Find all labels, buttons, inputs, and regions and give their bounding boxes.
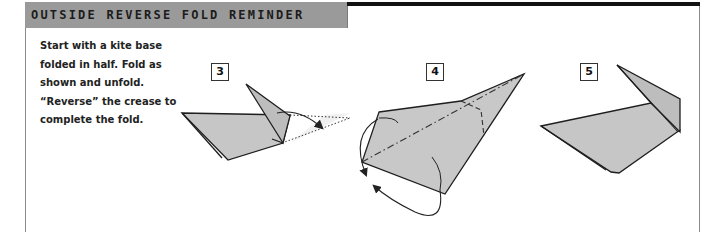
step-5-label: 5 <box>580 63 598 81</box>
step-3-diagram <box>182 84 350 160</box>
step-4-diagram <box>360 74 524 216</box>
step-5-diagram <box>541 65 680 173</box>
step-3-label: 3 <box>211 63 229 81</box>
origami-diagrams <box>0 0 726 232</box>
step-4-label: 4 <box>426 63 444 81</box>
